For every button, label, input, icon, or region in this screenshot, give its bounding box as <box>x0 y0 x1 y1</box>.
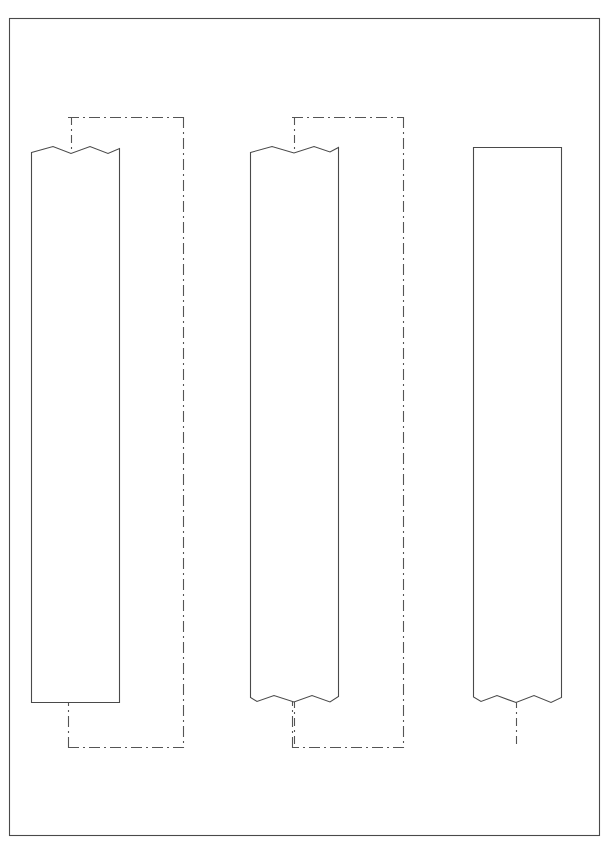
bar-middle-outline <box>251 147 339 703</box>
technical-drawing-canvas <box>0 0 609 852</box>
bar-right-outline <box>474 148 562 703</box>
drawing-sheet <box>0 0 609 852</box>
bar-left-outline <box>32 147 120 703</box>
